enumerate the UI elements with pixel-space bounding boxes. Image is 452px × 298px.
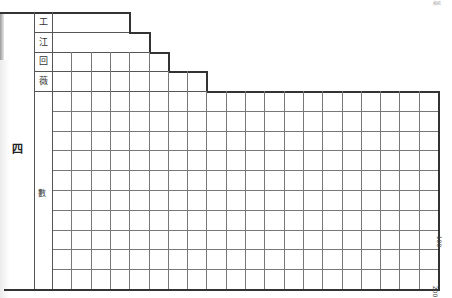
- grid-column-line: [71, 91, 72, 289]
- grid-column-line: [71, 71, 72, 91]
- grid-column-line: [110, 91, 111, 289]
- grid-top-border: [0, 12, 129, 14]
- row-label-3: 回: [34, 52, 52, 71]
- grid-bottom-border: [4, 289, 440, 291]
- side-label: 數: [35, 188, 49, 200]
- grid-row-line: [34, 91, 206, 92]
- grid-column-line: [129, 91, 130, 289]
- row-label-1: 工: [34, 13, 52, 32]
- grid-column-line: [361, 91, 362, 289]
- grid-step-edge: [149, 32, 151, 53]
- grid-column-line: [284, 91, 285, 289]
- grid-row-line: [34, 71, 168, 72]
- grid-column-line: [71, 52, 72, 71]
- grid-column-line: [303, 91, 304, 289]
- manuscript-page: 工 江 回 薇 四 數 100 200 稿紙: [0, 0, 452, 298]
- grid-column-line: [322, 91, 323, 289]
- grid-column-line: [380, 91, 381, 289]
- margin-number-200: 200: [432, 286, 439, 297]
- row-label-2: 江: [34, 33, 52, 52]
- grid-column-line: [129, 71, 130, 91]
- grid-column-line: [91, 71, 92, 91]
- grid-column-line: [245, 91, 246, 289]
- grid-column-line: [399, 91, 400, 289]
- grid-column-line: [168, 71, 169, 91]
- margin-number-100: 100: [436, 236, 443, 247]
- grid-column-line: [168, 91, 169, 289]
- corner-note: 稿紙: [433, 0, 441, 6]
- grid-column-line: [129, 52, 130, 71]
- grid-step-edge: [129, 12, 131, 33]
- grid-column-line: [149, 71, 150, 91]
- grid-column-line: [264, 91, 265, 289]
- grid-column-line: [226, 91, 227, 289]
- grid-column-line: [206, 91, 207, 289]
- grid-column-line: [419, 91, 420, 289]
- grid-column-line: [110, 52, 111, 71]
- grid-column-line: [149, 91, 150, 289]
- grid-step-edge: [206, 71, 208, 92]
- row-label-4: 薇: [34, 72, 52, 91]
- grid-left-border: [52, 12, 53, 289]
- grid-column-line: [91, 91, 92, 289]
- grid-column-line: [187, 71, 188, 91]
- grid-column-line: [149, 52, 150, 71]
- binding-shadow: [0, 12, 4, 62]
- page-edge-shadow: [0, 60, 10, 298]
- grid-step-edge: [168, 52, 170, 72]
- grid-column-line: [187, 91, 188, 289]
- grid-column-line: [342, 91, 343, 289]
- grid-right-border: [438, 91, 440, 290]
- grid-step-top: [129, 32, 150, 34]
- grid-step-top: [149, 52, 169, 54]
- grid-column-line: [110, 71, 111, 91]
- grid-column-line: [91, 52, 92, 71]
- section-label: 四: [10, 143, 24, 157]
